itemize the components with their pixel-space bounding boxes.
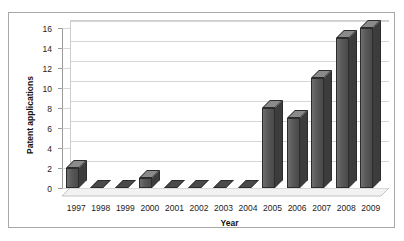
bar-top-face (115, 180, 136, 188)
bar-body (164, 188, 189, 189)
bar-front-face (262, 108, 275, 188)
bar-top-face (238, 180, 259, 188)
bar-body (311, 78, 336, 188)
bar-side-face (373, 20, 381, 188)
bar-body (238, 188, 263, 189)
bar-front-face (287, 118, 300, 188)
chart-frame: Patent applications 0246810121416 199719… (8, 12, 395, 228)
y-axis-title-label: Patent applications (25, 76, 35, 154)
bar-front-face (139, 178, 152, 188)
y-axis-tick-label: 6 (47, 125, 52, 134)
y-axis-tick-label: 16 (43, 25, 52, 34)
bar-body (139, 178, 164, 188)
y-axis-tick-label: 14 (43, 45, 52, 54)
x-axis-tick-labels: 1997199819992000200120022003200420052006… (62, 204, 389, 218)
bar-front-face (66, 168, 79, 188)
y-axis-tick-label: 0 (47, 185, 52, 194)
bar-series (62, 28, 389, 196)
y-axis-tick-label: 8 (47, 105, 52, 114)
x-axis-title: Year (62, 218, 397, 228)
bar-body (262, 108, 287, 188)
bar-side-face (275, 100, 283, 188)
gridline (71, 21, 389, 22)
bar-body (66, 168, 91, 188)
x-axis-tick-label: 2009 (357, 204, 385, 213)
plot-area: 0246810121416 19971998199920002001200220… (62, 26, 397, 216)
bar-side-face (349, 30, 357, 188)
axis-area: 0246810121416 (62, 28, 389, 188)
bar-top-face (188, 180, 209, 188)
bar-body (287, 118, 312, 188)
bar-body (213, 188, 238, 189)
bar-body (188, 188, 213, 189)
y-axis-tick-label: 10 (43, 85, 52, 94)
bar-body (115, 188, 140, 189)
bar-top-face (90, 180, 111, 188)
bar-top-face (164, 180, 185, 188)
bar-top-face (213, 180, 234, 188)
y-axis-title: Patent applications (23, 26, 37, 204)
y-axis-tick-label: 12 (43, 65, 52, 74)
bar-front-face (360, 28, 373, 188)
bar-body (336, 38, 361, 188)
bar-body (90, 188, 115, 189)
y-axis-tick-label: 2 (47, 165, 52, 174)
y-axis-tick-label: 4 (47, 145, 52, 154)
bar-side-face (300, 110, 308, 188)
bar-front-face (311, 78, 324, 188)
bar-front-face (336, 38, 349, 188)
bar-body (360, 28, 385, 188)
bar-side-face (324, 70, 332, 188)
